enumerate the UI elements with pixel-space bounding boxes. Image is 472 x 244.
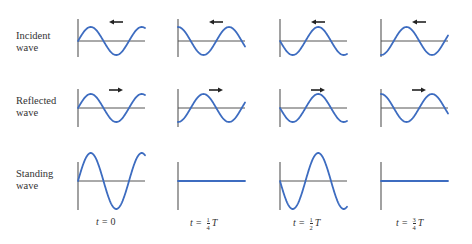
- arrowhead-left-icon: [311, 19, 316, 24]
- time-label-three-quarter: t = 34T: [396, 216, 423, 231]
- arrowhead-left-icon: [109, 19, 114, 24]
- wave-diagram: [0, 0, 472, 244]
- fraction: 14: [207, 216, 210, 231]
- time-label-0: t = 0: [96, 216, 116, 227]
- arrowhead-right-icon: [320, 87, 325, 92]
- arrowhead-left-icon: [412, 19, 417, 24]
- fraction: 34: [413, 216, 416, 231]
- time-label-quarter: t = 14T: [190, 216, 217, 231]
- arrowhead-right-icon: [421, 87, 426, 92]
- arrowhead-right-icon: [218, 87, 223, 92]
- arrowhead-right-icon: [118, 87, 123, 92]
- arrowhead-left-icon: [209, 19, 214, 24]
- fraction: 12: [310, 216, 313, 231]
- time-label-half: t = 12T: [293, 216, 320, 231]
